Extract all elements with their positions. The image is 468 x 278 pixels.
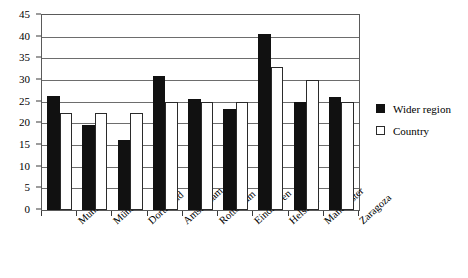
y-tick-label: 45	[19, 9, 30, 20]
y-tick-label: 15	[19, 139, 30, 150]
y-tick-label: 30	[19, 74, 30, 85]
x-axis-label-dortmund: Dortmund	[146, 218, 153, 226]
bar-dortmund-country	[130, 113, 143, 210]
x-axis-label-munich: Munich	[76, 218, 83, 226]
bar-munich-wider-region	[47, 96, 60, 210]
bar-helsinki-wider-region	[258, 34, 271, 210]
x-axis-label-helsinki: Helsinki	[287, 218, 294, 226]
legend-swatch-wider-region-icon	[376, 104, 385, 113]
y-axis: 051015202530354045	[0, 14, 36, 211]
x-axis-label-manchester: Manchester	[322, 218, 329, 226]
x-tick-mark	[182, 211, 183, 216]
legend-item-wider-region: Wider region	[376, 100, 468, 117]
bar-eindhoven-wider-region	[223, 109, 236, 210]
y-tick-label: 20	[19, 117, 30, 128]
legend-label-country: Country	[393, 125, 429, 137]
x-tick-mark	[323, 211, 324, 216]
bar-amsterdam-wider-region	[153, 76, 166, 210]
bar-rotterdam-country	[201, 102, 214, 210]
bars-layer	[42, 15, 359, 210]
x-tick-mark	[76, 211, 77, 216]
x-axis-label-eindhoven: Eindhoven	[252, 218, 259, 226]
y-tick-label: 0	[25, 204, 31, 215]
x-tick-mark	[41, 211, 42, 216]
x-axis-label-zaragoza: Zaragoza	[357, 218, 364, 226]
x-axis-label-amsterdam: Amsterdam	[181, 218, 188, 226]
legend-label-wider-region: Wider region	[393, 103, 451, 115]
x-tick-mark	[147, 211, 148, 216]
bar-zaragoza-wider-region	[329, 97, 342, 210]
bar-rotterdam-wider-region	[188, 99, 201, 210]
y-tick-label: 40	[19, 30, 30, 41]
bar-eindhoven-country	[236, 102, 249, 210]
bar-manchester-wider-region	[294, 102, 307, 210]
y-tick-label: 10	[19, 160, 30, 171]
bar-helsinki-country	[271, 67, 284, 210]
x-tick-mark	[358, 211, 359, 216]
bar-munich-country	[60, 113, 73, 210]
bar-amsterdam-country	[165, 102, 178, 210]
bar-mnster-country	[95, 113, 108, 210]
y-tick-label: 35	[19, 52, 30, 63]
legend-item-country: Country	[376, 122, 468, 139]
y-tick-label: 25	[19, 95, 30, 106]
bar-manchester-country	[306, 80, 319, 210]
x-tick-mark	[111, 211, 112, 216]
x-axis-label-rotterdam: Rotterdam	[217, 218, 224, 226]
x-tick-mark	[288, 211, 289, 216]
y-tick-label: 5	[25, 182, 31, 193]
bar-dortmund-wider-region	[118, 140, 131, 210]
x-axis-label-mnster: Münster	[111, 218, 118, 226]
x-tick-mark	[217, 211, 218, 216]
x-tick-mark	[252, 211, 253, 216]
x-axis-labels: MunichMünsterDortmundAmsterdamRotterdamE…	[0, 211, 468, 278]
bar-mnster-wider-region	[82, 125, 95, 210]
bar-chart: 051015202530354045 MunichMünsterDortmund…	[0, 0, 468, 278]
chart-legend: Wider region Country	[376, 100, 468, 144]
legend-swatch-country-icon	[376, 126, 385, 135]
bar-zaragoza-country	[341, 102, 354, 210]
x-axis-ticks	[41, 211, 360, 217]
